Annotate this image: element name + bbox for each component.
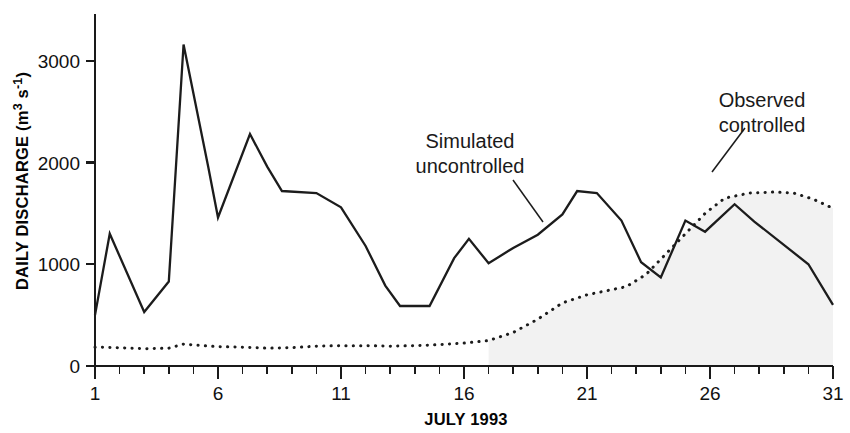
annotation-observed-line1: Observed xyxy=(719,89,806,111)
annotation-simulated-line2: uncontrolled xyxy=(416,155,525,177)
y-tick-label-1000: 1000 xyxy=(38,254,80,275)
x-tick-label-11: 11 xyxy=(331,383,351,404)
x-axis-tick-labels: 161116212631 xyxy=(90,383,844,404)
y-axis-ticks xyxy=(86,61,95,366)
y-axis-title: DAILY DISCHARGE (m3 s-1) xyxy=(11,72,31,290)
x-tick-label-16: 16 xyxy=(453,383,474,404)
leader-line-simulated-uncontrolled xyxy=(513,180,543,222)
x-tick-label-21: 21 xyxy=(576,383,597,404)
x-tick-label-6: 6 xyxy=(213,383,224,404)
y-axis-title-mid: s xyxy=(13,89,31,103)
annotation-simulated-line1: Simulated xyxy=(426,130,515,152)
y-axis-title-tail: ) xyxy=(13,72,31,78)
y-tick-label-2000: 2000 xyxy=(38,153,80,174)
y-tick-label-3000: 3000 xyxy=(38,51,80,72)
y-axis-title-sup-minus1: -1 xyxy=(11,78,25,90)
annotation-observed-line2: controlled xyxy=(719,114,806,136)
x-tick-label-31: 31 xyxy=(822,383,843,404)
y-tick-label-0: 0 xyxy=(69,356,80,377)
y-axis-title-sup-3: 3 xyxy=(11,103,25,110)
y-axis-tick-labels: 0100020003000 xyxy=(38,51,80,377)
x-axis-title: JULY 1993 xyxy=(424,410,507,428)
discharge-line-chart: 0100020003000 161116212631 Simulated unc… xyxy=(0,0,850,433)
y-axis-title-main: DAILY DISCHARGE (m xyxy=(13,110,31,290)
x-tick-label-26: 26 xyxy=(699,383,720,404)
x-axis-ticks xyxy=(95,366,833,379)
chart-figure: 0100020003000 161116212631 Simulated unc… xyxy=(0,0,850,433)
x-tick-label-1: 1 xyxy=(90,383,101,404)
